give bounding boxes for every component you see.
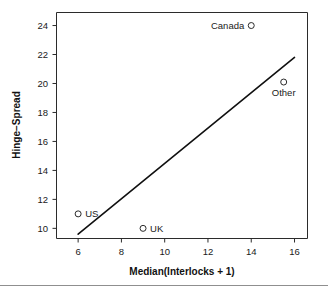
x-tick-label-16: 16 [289, 246, 300, 257]
x-axis-title: Median(Interlocks + 1) [129, 266, 234, 277]
y-tick-label-12: 12 [37, 194, 48, 205]
x-tick-label-14: 14 [246, 246, 257, 257]
x-tick-label-10: 10 [159, 246, 170, 257]
scatter-plot: 10 12 14 16 18 20 22 24 6 8 10 12 14 16 [0, 0, 328, 291]
y-tick-label-16: 16 [37, 136, 48, 147]
data-label-other: Other [272, 87, 296, 98]
data-label-canada: Canada [211, 20, 245, 31]
y-tick-label-22: 22 [37, 49, 48, 60]
y-tick-label-18: 18 [37, 107, 48, 118]
x-tick-label-8: 8 [119, 246, 124, 257]
data-label-uk: UK [150, 223, 164, 234]
y-tick-label-20: 20 [37, 78, 48, 89]
y-tick-label-14: 14 [37, 165, 48, 176]
y-tick-label-24: 24 [37, 20, 48, 31]
data-label-us: US [85, 208, 98, 219]
chart-figure: 10 12 14 16 18 20 22 24 6 8 10 12 14 16 [0, 0, 328, 291]
y-axis-title: Hinge−Spread [11, 91, 22, 159]
y-tick-label-10: 10 [37, 223, 48, 234]
x-tick-label-6: 6 [75, 246, 80, 257]
x-tick-label-12: 12 [203, 246, 214, 257]
